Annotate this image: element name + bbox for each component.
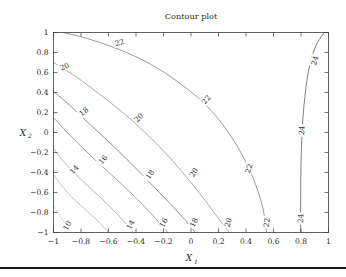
y-axis-title: X2 bbox=[19, 128, 32, 140]
x-tick-label-10: 1 bbox=[326, 237, 331, 246]
contour-label-text: 14 bbox=[68, 163, 81, 176]
contour-label-16-0: 16 bbox=[96, 152, 111, 167]
contour-line-22 bbox=[63, 33, 267, 233]
x-axis-title: X1 bbox=[185, 253, 198, 265]
y-tick-label-5: 0 bbox=[44, 128, 49, 137]
contour-label-14-1: 14 bbox=[124, 217, 138, 232]
x-tick-label-1: −0.8 bbox=[72, 237, 91, 246]
contour-plot-svg: Contour plot1014141616181818202020202222… bbox=[0, 0, 346, 277]
x-tick-label-3: −0.4 bbox=[127, 237, 146, 246]
contour-label-24-2: 24 bbox=[296, 212, 305, 225]
contour-label-20-0: 20 bbox=[57, 60, 72, 73]
contour-line-20 bbox=[54, 63, 230, 233]
contour-label-20-1: 20 bbox=[131, 110, 146, 125]
contour-label-22-0: 22 bbox=[112, 36, 126, 48]
y-tick-label-4: −0.2 bbox=[30, 148, 49, 157]
y-axis-title-subscript: 2 bbox=[27, 132, 32, 139]
contour-label-20-3: 20 bbox=[222, 215, 234, 230]
contour-label-24-0: 24 bbox=[309, 53, 321, 68]
chart-title: Contour plot bbox=[165, 11, 218, 21]
contour-label-text: 16 bbox=[97, 153, 110, 166]
contour-label-14-0: 14 bbox=[67, 162, 82, 177]
contour-label-text: 24 bbox=[296, 213, 305, 223]
y-axis-title-glyph: X bbox=[19, 128, 27, 138]
x-tick-label-8: 0.6 bbox=[267, 237, 279, 246]
x-tick-label-7: 0.4 bbox=[240, 237, 252, 246]
y-tick-label-6: 0.2 bbox=[36, 108, 48, 117]
x-tick-label-2: −0.6 bbox=[99, 237, 118, 246]
y-tick-label-10: 1 bbox=[44, 28, 49, 37]
x-tick-label-9: 0.8 bbox=[295, 237, 307, 246]
contour-label-22-3: 22 bbox=[262, 216, 272, 229]
x-axis-title-subscript: 1 bbox=[194, 258, 198, 265]
contour-label-text: 24 bbox=[297, 125, 307, 135]
contour-label-20-2: 20 bbox=[187, 165, 201, 180]
contour-label-24-1: 24 bbox=[297, 124, 307, 137]
contour-lines-group bbox=[54, 33, 325, 233]
x-tick-label-0: −1 bbox=[48, 237, 59, 246]
x-tick-label-6: 0.2 bbox=[212, 237, 224, 246]
x-tick-label-5: 0 bbox=[189, 237, 194, 246]
contour-label-22-1: 22 bbox=[199, 92, 214, 107]
contour-label-text: 18 bbox=[77, 105, 90, 118]
y-tick-label-7: 0.4 bbox=[36, 88, 48, 97]
x-axis-title-glyph: X bbox=[185, 253, 193, 263]
contour-plot-figure: Contour plot1014141616181818202020202222… bbox=[0, 0, 346, 277]
contour-label-text: 22 bbox=[262, 217, 272, 227]
contour-label-18-1: 18 bbox=[143, 167, 157, 182]
contour-label-18-0: 18 bbox=[76, 104, 91, 119]
contour-line-12 bbox=[54, 175, 109, 233]
contour-label-18-2: 18 bbox=[187, 215, 200, 230]
contour-label-16-1: 16 bbox=[157, 215, 171, 230]
y-tick-label-1: −0.8 bbox=[30, 208, 49, 217]
y-tick-label-3: −0.4 bbox=[30, 168, 49, 177]
y-tick-label-2: −0.6 bbox=[30, 188, 49, 197]
contour-label-text: 18 bbox=[143, 168, 156, 181]
x-tick-label-4: −0.2 bbox=[154, 237, 173, 246]
y-tick-label-9: 0.8 bbox=[36, 48, 48, 57]
plot-frame bbox=[54, 33, 329, 233]
page-bottom-rule bbox=[0, 267, 346, 269]
y-tick-label-0: −1 bbox=[37, 228, 48, 237]
contour-label-22-2: 22 bbox=[243, 161, 255, 176]
y-tick-label-8: 0.6 bbox=[36, 68, 48, 77]
contour-label-text: 22 bbox=[200, 93, 213, 106]
